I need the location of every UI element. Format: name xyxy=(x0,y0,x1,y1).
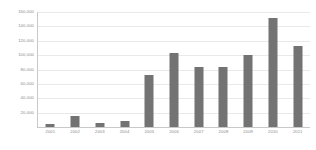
x-axis-tick-label: 2003 xyxy=(95,130,105,134)
bar[interactable] xyxy=(293,46,302,127)
bar[interactable] xyxy=(46,124,55,127)
y-axis-tick-label: 40,000 xyxy=(0,96,34,100)
x-axis-tick-label: 2011 xyxy=(293,130,302,134)
x-axis-tick-label: 2010 xyxy=(268,130,278,134)
bar-slot xyxy=(38,12,63,127)
y-axis-tick-label: 80,000 xyxy=(0,67,34,71)
x-axis-tick-label: 2004 xyxy=(120,130,130,134)
y-axis-tick-label: 160,000 xyxy=(0,10,34,14)
x-axis-tick-label: 2009 xyxy=(243,130,253,134)
bar-slot xyxy=(285,12,310,127)
bar[interactable] xyxy=(194,67,203,127)
bar-slot xyxy=(162,12,187,127)
x-axis-tick-label: 2002 xyxy=(70,130,80,134)
y-axis-tick-label: 20,000 xyxy=(0,111,34,115)
bar-slot xyxy=(87,12,112,127)
bar-chart: 20,00040,00060,00080,000100,000120,00014… xyxy=(0,0,316,150)
bar-slot xyxy=(211,12,236,127)
bar[interactable] xyxy=(95,123,104,127)
bar[interactable] xyxy=(244,55,253,127)
bar[interactable] xyxy=(268,18,277,127)
bar[interactable] xyxy=(169,53,178,127)
y-axis-tick-label: 60,000 xyxy=(0,82,34,86)
x-axis-tick-label: 2005 xyxy=(144,130,154,134)
x-axis-tick-label: 2007 xyxy=(194,130,204,134)
x-axis-line xyxy=(37,127,310,128)
y-axis-tick-label: 140,000 xyxy=(0,24,34,28)
bar-slot xyxy=(112,12,137,127)
x-axis-tick-label: 2006 xyxy=(169,130,179,134)
bar-slot xyxy=(186,12,211,127)
y-axis-tick-label: 120,000 xyxy=(0,39,34,43)
bar[interactable] xyxy=(120,121,129,127)
bar[interactable] xyxy=(219,67,228,127)
bar[interactable] xyxy=(71,116,80,127)
bar-slot xyxy=(63,12,88,127)
x-axis-tick-label: 2001 xyxy=(46,130,56,134)
bar-slot xyxy=(137,12,162,127)
y-axis-tick-label: 100,000 xyxy=(0,53,34,57)
bar-slot xyxy=(236,12,261,127)
bar[interactable] xyxy=(145,75,154,127)
bar-slot xyxy=(261,12,286,127)
bar-series xyxy=(38,12,310,127)
x-axis-tick-label: 2008 xyxy=(219,130,229,134)
